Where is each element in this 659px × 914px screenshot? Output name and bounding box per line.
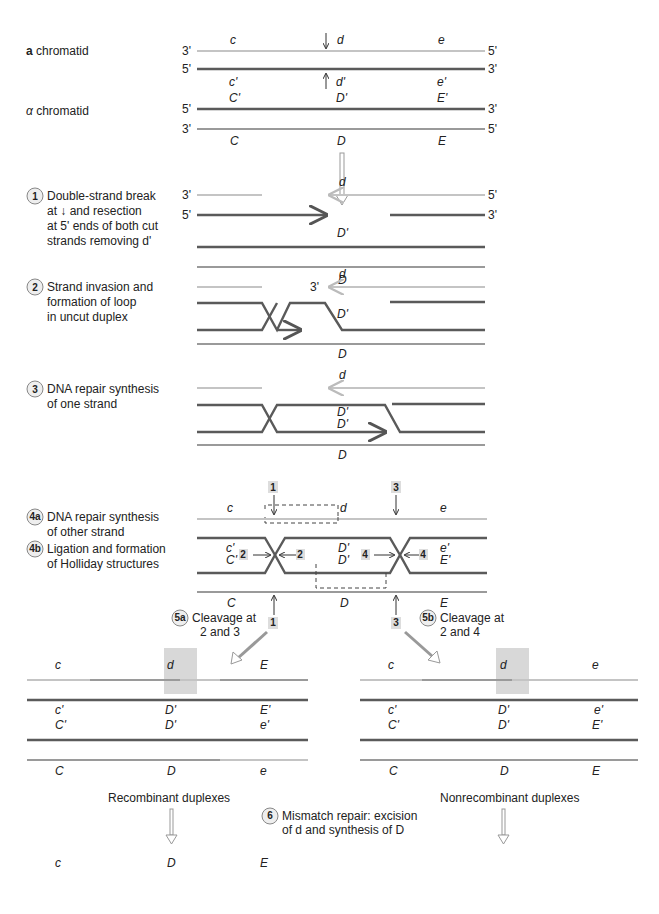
final-duplexes-layer	[0, 0, 659, 914]
